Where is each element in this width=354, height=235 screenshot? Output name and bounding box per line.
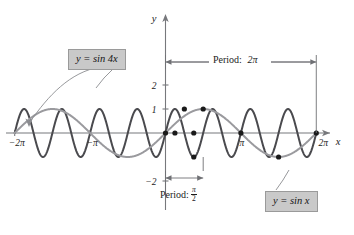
leader-line-sinx	[276, 170, 289, 190]
y-tick-label-neg-2: −2	[145, 177, 156, 187]
period-2pi-annotation: Period: 2π	[213, 54, 257, 65]
period-half-pi-text: Period:	[160, 189, 189, 200]
marked-point-7	[172, 130, 177, 135]
pi-over-two-fraction: π2	[191, 186, 197, 203]
x-tick-label-neg-2pi: −2π	[9, 138, 25, 148]
annotation-arrows-group	[166, 55, 317, 196]
period-half-pi-annotation: Period:π2	[160, 186, 197, 203]
leader-lines-group	[25, 67, 289, 190]
axes-group	[6, 14, 330, 210]
y-axis-name-label: y	[151, 13, 157, 24]
marked-point-2	[238, 130, 243, 135]
x-axis-name-label: x	[335, 136, 341, 147]
fraction-denominator: 2	[191, 195, 197, 203]
period-half-pi-arrow	[166, 175, 204, 181]
x-tick-label-neg-pi: −π	[87, 138, 98, 148]
callout-label-sinx: y = sin x	[265, 191, 318, 212]
leader-line-sin4x	[96, 70, 112, 88]
y-tick-label-2: 2	[152, 81, 157, 91]
period-2pi-value: 2π	[247, 54, 257, 65]
marked-point-8	[191, 154, 196, 159]
figure-canvas: −2π−ππ2π21−2yx y = sin 4x y = sin x Peri…	[0, 0, 354, 235]
marked-point-5	[182, 106, 187, 111]
x-tick-label-2pi: 2π	[319, 138, 329, 148]
y-tick-label-1: 1	[152, 105, 157, 115]
marked-point-1	[201, 106, 206, 111]
marked-point-3	[276, 154, 281, 159]
x-tick-label-pi: π	[240, 138, 245, 148]
axis-text-group: −2π−ππ2π21−2yx	[9, 13, 341, 187]
marked-point-0	[163, 130, 168, 135]
marked-point-6	[191, 130, 196, 135]
callout-label-sin4x: y = sin 4x	[68, 49, 126, 70]
period-2pi-text: Period:	[213, 54, 242, 65]
